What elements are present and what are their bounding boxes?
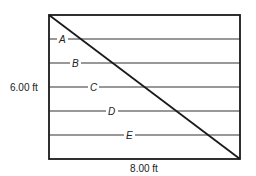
label-d: D (108, 106, 115, 117)
height-label: 6.00 ft (10, 82, 38, 93)
label-b: B (72, 58, 79, 69)
label-a: A (58, 34, 66, 45)
width-label: 8.00 ft (130, 163, 158, 174)
label-e: E (126, 130, 133, 141)
diagram-canvas: A B C D E 6.00 ft 8.00 ft (0, 0, 256, 176)
label-c: C (90, 82, 98, 93)
